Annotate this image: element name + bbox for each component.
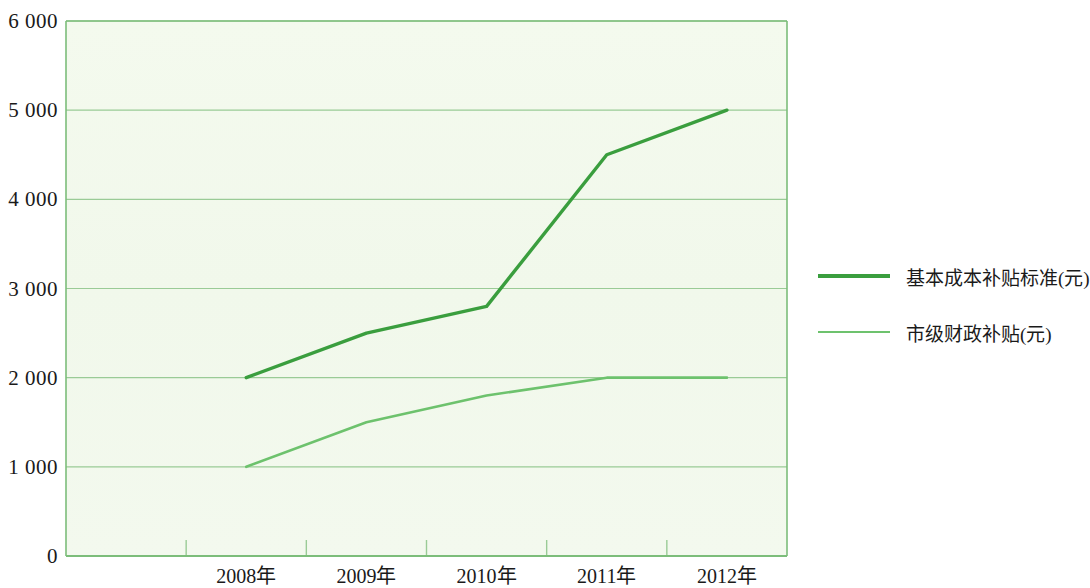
legend: 基本成本补贴标准(元) 市级财政补贴(元) (818, 248, 1084, 360)
x-tick-label: 2012年 (697, 560, 757, 588)
legend-label-primary: 基本成本补贴标准(元) (906, 263, 1090, 290)
y-axis: 01 0002 0003 0004 0005 0006 000 (0, 0, 58, 588)
x-tick-label: 2009年 (336, 560, 396, 588)
legend-swatch-primary-icon (818, 274, 890, 278)
x-tick-label: 2010年 (457, 560, 517, 588)
x-axis: 2008年2009年2010年2011年2012年 (0, 560, 1084, 588)
x-tick-label: 2008年 (216, 560, 276, 588)
y-tick-label: 4 000 (8, 187, 58, 212)
y-tick-label: 3 000 (8, 276, 58, 301)
legend-swatch-secondary-icon (818, 331, 890, 334)
y-tick-label: 5 000 (8, 98, 58, 123)
legend-item-secondary: 市级财政补贴(元) (818, 304, 1084, 360)
x-tick-label: 2011年 (577, 560, 636, 588)
y-tick-label: 1 000 (8, 454, 58, 479)
legend-label-secondary: 市级财政补贴(元) (906, 319, 1052, 346)
y-tick-label: 2 000 (8, 365, 58, 390)
legend-item-primary: 基本成本补贴标准(元) (818, 248, 1084, 304)
y-tick-label: 6 000 (8, 9, 58, 34)
